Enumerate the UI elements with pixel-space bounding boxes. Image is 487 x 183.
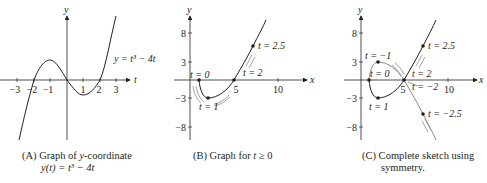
point-label: t = 2 (412, 68, 432, 79)
x-axis-label: x (478, 74, 484, 85)
tick-label: 10 (444, 84, 454, 95)
caption-formula: y(t) = t³ − 4t (41, 162, 94, 173)
caption-text: (C) Complete sketch using (362, 150, 474, 162)
caption-text: symmetry. (362, 162, 474, 174)
y-axis-label: y (357, 4, 363, 15)
caption-text: -coordinate (84, 150, 132, 161)
tick-label: 3 (352, 57, 357, 68)
point-label: t = 2.5 (428, 40, 455, 51)
point-label: t = 0 (190, 69, 210, 80)
point-label: t = −2 (412, 81, 438, 92)
tick-label: −3 (175, 93, 186, 104)
tick-label: 8 (352, 28, 357, 39)
point-label: t = −2.5 (428, 108, 462, 119)
tick-label: 5 (401, 84, 406, 95)
caption-b: (B) Graph for t ≥ 0 (193, 150, 273, 162)
tick-label: 10 (273, 84, 283, 95)
tick-label: 8 (181, 28, 186, 39)
tick-label: 3 (114, 84, 119, 95)
point-label: t = 2 (243, 67, 263, 78)
panel-c-graph: y x 8 3 −3 −8 5 10 (344, 4, 484, 140)
caption-c: (C) Complete sketch using symmetry. (362, 150, 474, 174)
tick-label: −3 (10, 84, 21, 95)
tick-label: −3 (346, 93, 357, 104)
y-axis-label: y (186, 4, 192, 15)
curve-label: y = t³ − 4t (113, 53, 156, 64)
tick-label: −1 (43, 84, 54, 95)
panel-a-graph: y t −3 −2 −1 1 2 3 y = t³ − 4t (0, 4, 156, 140)
x-axis-label: x (309, 74, 315, 85)
tick-label: 5 (234, 84, 239, 95)
y-axis-label: y (63, 4, 69, 15)
caption-text: ≥ 0 (256, 150, 272, 161)
point-label: t = 1 (369, 101, 389, 112)
caption-text: (A) Graph of (22, 150, 79, 161)
tick-label: 3 (181, 57, 186, 68)
caption-text: (B) Graph for (193, 150, 253, 161)
panel-b-graph: y x 8 3 −3 −8 5 10 (174, 4, 315, 140)
t-axis-label: t (134, 74, 137, 85)
cubic-curve (19, 16, 116, 140)
tick-label: 1 (81, 84, 86, 95)
parametric-curve (199, 20, 266, 98)
caption-a: (A) Graph of y-coordinate y(t) = t³ − 4t (22, 150, 132, 174)
point-label: t = −1 (365, 50, 391, 61)
point-label: t = 0 (370, 68, 390, 79)
tick-label: 2 (97, 84, 102, 95)
tick-label: −8 (346, 122, 357, 133)
point-label: t = 1 (199, 101, 219, 112)
point-label: t = 2.5 (258, 40, 285, 51)
tick-label: −8 (175, 122, 186, 133)
